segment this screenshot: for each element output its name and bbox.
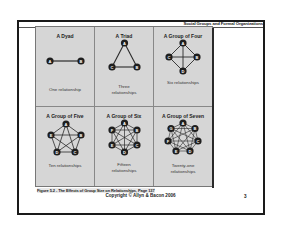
svg-text:E: E [50, 133, 53, 138]
svg-text:A: A [123, 121, 126, 126]
panel-group-of-seven: A Group of Seven A B C D E F G Twenty-on… [154, 107, 212, 186]
svg-text:E: E [111, 143, 114, 148]
svg-text:A: A [123, 41, 126, 46]
panel-caption: One relationship [38, 87, 92, 93]
caption-line: Ten relationships [49, 163, 82, 168]
svg-text:C: C [74, 150, 77, 155]
figure-shadow [212, 28, 214, 188]
svg-text:D: D [123, 150, 126, 155]
caption-line: relationships [156, 169, 210, 175]
svg-text:C: C [197, 139, 200, 144]
copyright-notice: Copyright © Allyn & Bacon 2006 [0, 193, 281, 198]
panel-caption: Fifteen relationships [97, 162, 151, 173]
panel-caption: Ten relationships [38, 163, 92, 169]
caption-line: One relationship [49, 87, 81, 92]
triad-diagram-icon: A C B [95, 27, 154, 107]
svg-text:B: B [136, 128, 139, 133]
dyad-diagram-icon: A B [36, 27, 95, 107]
group-of-six-diagram-icon: A B C D E F [95, 107, 154, 186]
svg-text:B: B [136, 65, 139, 70]
caption-line: relationships [97, 168, 151, 174]
panel-group-of-six: A Group of Six A B C D E F Fifteen relat… [95, 107, 154, 186]
group-of-four-diagram-icon: A C B D [154, 27, 212, 107]
svg-text:C: C [111, 65, 114, 70]
panel-caption: Six relationships [156, 80, 210, 86]
panel-triad: A Triad A C B Three relationships [95, 27, 154, 107]
svg-text:B: B [80, 59, 83, 64]
group-of-seven-diagram-icon: A B C D E F G [154, 107, 212, 186]
svg-text:A: A [65, 122, 68, 127]
svg-text:D: D [182, 69, 185, 74]
svg-text:D: D [56, 150, 59, 155]
svg-text:B: B [80, 133, 83, 138]
svg-text:E: E [175, 149, 178, 154]
page-number: 3 [244, 194, 247, 199]
svg-text:G: G [169, 126, 172, 131]
panel-group-of-five: A Group of Five A B C D E Ten relationsh… [36, 107, 95, 186]
panel-caption: Three relationships [97, 84, 151, 95]
svg-text:A: A [182, 121, 185, 126]
group-size-figure: A Dyad A B One relationship A Triad A C … [35, 26, 213, 187]
panel-caption: Twenty-one relationships [156, 163, 210, 174]
svg-text:A: A [182, 41, 185, 46]
svg-text:D: D [189, 149, 192, 154]
svg-text:C: C [136, 143, 139, 148]
panel-group-of-four: A Group of Four A C B D Six relationship… [154, 27, 212, 107]
svg-text:B: B [196, 55, 199, 60]
svg-text:A: A [49, 59, 52, 64]
svg-text:B: B [194, 126, 197, 131]
caption-line: Six relationships [167, 80, 199, 85]
caption-line: relationships [97, 90, 151, 96]
panel-dyad: A Dyad A B One relationship [36, 27, 95, 107]
group-of-five-diagram-icon: A B C D E [36, 107, 95, 186]
svg-text:C: C [168, 55, 171, 60]
